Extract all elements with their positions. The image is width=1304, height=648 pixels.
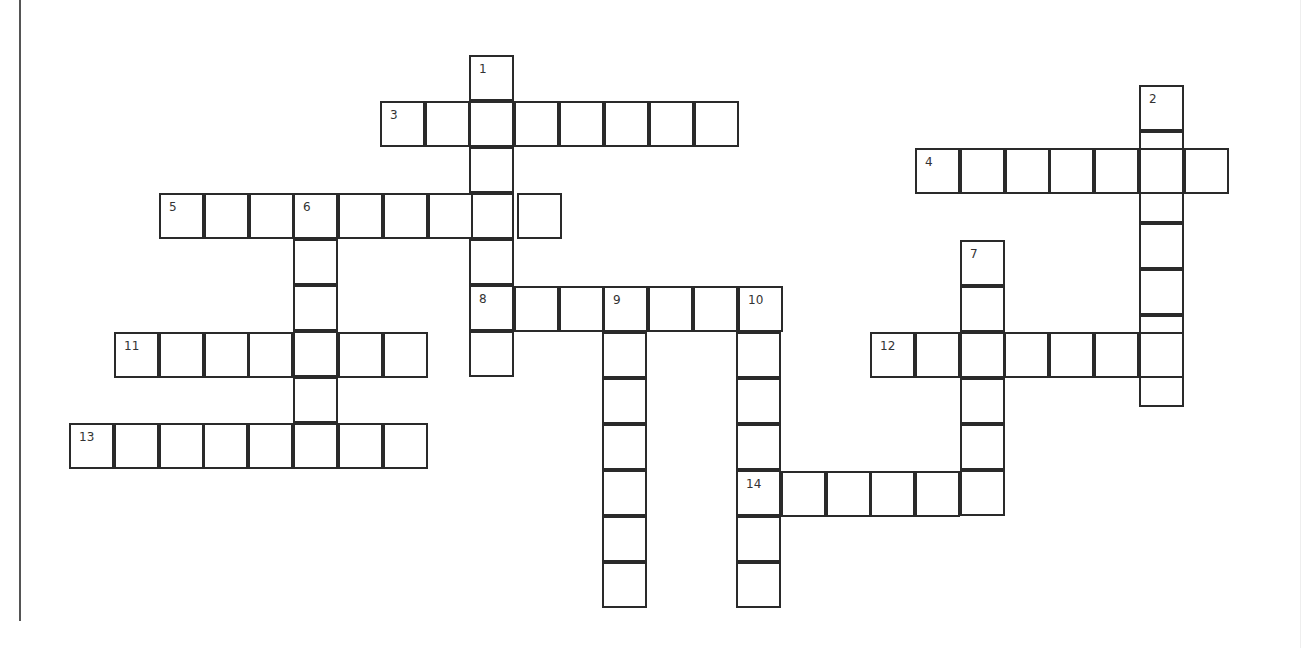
crossword-cell[interactable]: 2 [1139,85,1184,131]
crossword-cell[interactable]: 7 [960,240,1005,286]
crossword-cell[interactable] [1139,332,1184,378]
crossword-cell[interactable] [514,101,559,147]
crossword-cell[interactable]: 9 [603,286,648,332]
crossword-cell[interactable] [1049,148,1094,194]
crossword-cell[interactable] [602,470,647,516]
crossword-cell[interactable] [293,377,338,423]
crossword-cell[interactable] [648,286,693,332]
crossword-cell[interactable] [781,471,826,517]
crossword-cell[interactable] [736,562,781,608]
crossword-cell[interactable] [159,423,204,469]
page-border-left [19,0,21,621]
crossword-cell[interactable] [383,332,428,378]
clue-number: 5 [169,201,177,213]
crossword-cell[interactable]: 3 [380,101,425,147]
crossword-cell[interactable]: 14 [736,470,781,516]
crossword-cell[interactable]: 5 [159,193,204,239]
crossword-cell[interactable] [517,193,562,239]
crossword-cell[interactable] [204,332,249,378]
clue-number: 4 [925,156,933,168]
crossword-cell[interactable] [736,424,781,470]
clue-number: 1 [479,63,487,75]
crossword-cell[interactable] [293,423,338,469]
crossword-cell[interactable] [693,286,738,332]
clue-number: 10 [748,294,763,306]
crossword-cell[interactable] [1005,148,1050,194]
crossword-cell[interactable] [960,286,1005,332]
crossword-cell[interactable] [602,562,647,608]
crossword-cell[interactable] [338,193,383,239]
clue-number: 8 [479,293,487,305]
crossword-cell[interactable] [293,239,338,285]
crossword-cell[interactable] [915,471,960,517]
crossword-cell[interactable]: 4 [915,148,960,194]
crossword-cell[interactable] [1049,332,1094,378]
crossword-cell[interactable] [383,193,428,239]
page-border-right [1300,0,1301,648]
crossword-cell[interactable] [469,239,514,285]
crossword-cell[interactable]: 8 [469,285,514,331]
crossword-cell[interactable] [602,332,647,378]
clue-number: 9 [613,294,621,306]
crossword-cell[interactable] [469,331,514,377]
crossword-cell[interactable] [1184,148,1229,194]
crossword-cell[interactable] [1094,332,1139,378]
crossword-cell[interactable] [1004,332,1049,378]
crossword-cell[interactable] [469,193,514,239]
clue-number: 2 [1149,93,1157,105]
crossword-cell[interactable]: 11 [114,332,159,378]
crossword-cell[interactable] [960,148,1005,194]
crossword-cell[interactable] [559,101,604,147]
crossword-cell[interactable] [604,101,649,147]
crossword-cell[interactable] [338,423,383,469]
crossword-cell[interactable] [602,424,647,470]
crossword-cell[interactable] [249,193,294,239]
clue-number: 3 [390,109,398,121]
crossword-cell[interactable] [1139,269,1184,315]
crossword-cell[interactable]: 10 [738,286,783,332]
crossword-cell[interactable] [293,285,338,331]
clue-number: 6 [303,201,311,213]
crossword-cell[interactable] [428,193,473,239]
crossword-cell[interactable]: 13 [69,423,114,469]
crossword-cell[interactable] [736,332,781,378]
crossword-cell[interactable] [159,332,204,378]
crossword-cell[interactable] [1094,148,1139,194]
crossword-cell[interactable]: 12 [870,332,915,378]
clue-number: 11 [124,340,139,352]
crossword-cell[interactable] [826,471,871,517]
crossword-cell[interactable] [203,423,248,469]
crossword-cell[interactable] [425,101,470,147]
crossword-cell[interactable] [1139,148,1184,194]
crossword-cell[interactable] [514,286,559,332]
crossword-cell[interactable] [469,147,514,193]
crossword-cell[interactable] [915,332,960,378]
crossword-cell[interactable] [870,471,915,517]
crossword-cell[interactable] [383,423,428,469]
crossword-cell[interactable] [736,378,781,424]
crossword-cell[interactable]: 6 [293,193,338,239]
crossword-cell[interactable] [248,332,293,378]
crossword-cell[interactable] [248,423,293,469]
crossword-cell[interactable] [960,332,1005,378]
crossword-cell[interactable] [602,516,647,562]
clue-number: 7 [970,248,978,260]
crossword-cell[interactable] [960,424,1005,470]
crossword-cell[interactable] [960,470,1005,516]
crossword-cell[interactable] [114,423,159,469]
crossword-cell[interactable] [293,331,338,377]
crossword-cell[interactable] [960,378,1005,424]
crossword-cell[interactable] [602,378,647,424]
crossword-cell[interactable] [559,286,604,332]
crossword-cell[interactable] [736,516,781,562]
clue-number: 12 [880,340,895,352]
clue-number: 13 [79,431,94,443]
crossword-cell[interactable] [649,101,694,147]
crossword-cell[interactable] [1139,223,1184,269]
crossword-cell[interactable] [694,101,739,147]
clue-number: 14 [746,478,761,490]
crossword-cell[interactable] [204,193,249,239]
crossword-cell[interactable] [338,332,383,378]
crossword-cell[interactable] [469,101,514,147]
crossword-cell[interactable]: 1 [469,55,514,101]
